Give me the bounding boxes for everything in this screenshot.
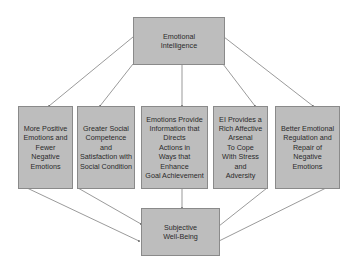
- node-emotional-intelligence: Emotional Intelligence: [133, 17, 225, 65]
- node-positive-emotions: More Positive Emotions and Fewer Negativ…: [18, 106, 73, 189]
- edge-m1-bottom: [27, 188, 139, 241]
- edge-m2-bottom: [78, 188, 141, 224]
- node-emotions-provide-information: Emotions Provide Information that Direct…: [141, 106, 208, 189]
- edge-top-m5: [224, 37, 313, 106]
- node-emotional-regulation: Better Emotional Regulation and Repair o…: [275, 106, 340, 189]
- edge-m4-bottom: [219, 188, 267, 226]
- edge-top-m1: [49, 37, 133, 106]
- edge-top-m4: [223, 64, 255, 106]
- edge-top-m2: [100, 64, 133, 106]
- diagram-canvas: Emotional Intelligence More Positive Emo…: [0, 0, 353, 271]
- edge-m5-bottom: [219, 188, 326, 241]
- node-social-competence: Greater Social Competence and Satisfacti…: [77, 106, 135, 189]
- node-subjective-well-being: Subjective Well-Being: [141, 208, 220, 256]
- node-affective-arsenal: EI Provides a Rich Affective Arsenal To …: [213, 106, 268, 189]
